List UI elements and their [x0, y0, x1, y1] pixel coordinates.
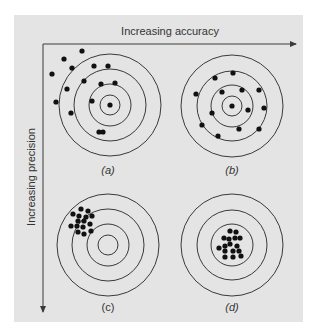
shot-dot — [226, 236, 231, 241]
target-label-d: (d) — [225, 301, 239, 313]
target-label-a: (a) — [101, 164, 115, 176]
target-label-c: (c) — [102, 301, 115, 313]
shot-dot — [236, 248, 241, 253]
x-axis-label: Increasing accuracy — [121, 25, 219, 37]
shot-dot — [100, 129, 105, 134]
shot-dot — [61, 56, 66, 61]
shot-dot — [230, 70, 235, 75]
shot-dot — [76, 213, 81, 218]
shot-dot — [230, 248, 235, 253]
shot-dot — [222, 248, 227, 253]
shot-dot — [64, 86, 69, 91]
shot-dot — [112, 80, 117, 85]
target-a: (a) — [49, 48, 161, 176]
shot-dot — [216, 245, 221, 250]
shot-dot — [49, 71, 54, 76]
shot-dot — [75, 229, 80, 234]
target-ring — [98, 235, 118, 255]
shot-dot — [227, 241, 232, 246]
shot-dot — [233, 229, 238, 234]
shot-dot — [79, 48, 84, 53]
shot-dot — [53, 99, 58, 104]
accuracy-precision-diagram: Increasing accuracy Increasing precision… — [0, 0, 318, 334]
shot-dot — [74, 223, 79, 228]
shot-dot — [68, 110, 73, 115]
shot-dot — [222, 254, 227, 259]
shot-dot — [227, 228, 232, 233]
shot-dot — [89, 213, 94, 218]
shot-dot — [256, 87, 261, 92]
shot-dot — [237, 235, 242, 240]
shot-dot — [98, 81, 103, 86]
shot-dot — [239, 87, 244, 92]
shot-dot — [80, 224, 85, 229]
shot-dots — [216, 228, 243, 259]
target-c: (c) — [57, 194, 159, 313]
shot-dot — [87, 221, 92, 226]
target-label-b: (b) — [225, 164, 239, 176]
shot-dot — [75, 218, 80, 223]
shot-dot — [81, 231, 86, 236]
shot-dot — [78, 206, 83, 211]
shot-dot — [107, 102, 112, 107]
target-rings — [57, 194, 159, 296]
shot-dot — [234, 243, 239, 248]
shot-dot — [85, 208, 90, 213]
shot-dot — [215, 133, 220, 138]
shot-dot — [81, 218, 86, 223]
shot-dot — [222, 243, 227, 248]
shot-dot — [105, 63, 110, 68]
shot-dot — [261, 105, 266, 110]
shot-dot — [91, 63, 96, 68]
shot-dot — [230, 254, 235, 259]
shot-dot — [199, 122, 204, 127]
shot-dot — [209, 110, 214, 115]
shot-dot — [219, 89, 224, 94]
shot-dot — [238, 253, 243, 258]
shot-dot — [81, 78, 86, 83]
shot-dot — [236, 126, 241, 131]
shot-dot — [232, 235, 237, 240]
shot-dot — [245, 107, 250, 112]
y-axis-label: Increasing precision — [25, 128, 37, 226]
shot-dot — [69, 65, 74, 70]
shot-dot — [89, 98, 94, 103]
shot-dot — [256, 126, 261, 131]
target-d: (d) — [181, 194, 283, 313]
shot-dot — [70, 211, 75, 216]
shot-dot — [212, 75, 217, 80]
shot-dot — [193, 91, 198, 96]
shot-dot — [229, 103, 234, 108]
shot-dot — [88, 228, 93, 233]
shot-dot — [68, 223, 73, 228]
shot-dots — [68, 206, 94, 236]
shot-dot — [221, 235, 226, 240]
target-b: (b) — [181, 55, 283, 176]
